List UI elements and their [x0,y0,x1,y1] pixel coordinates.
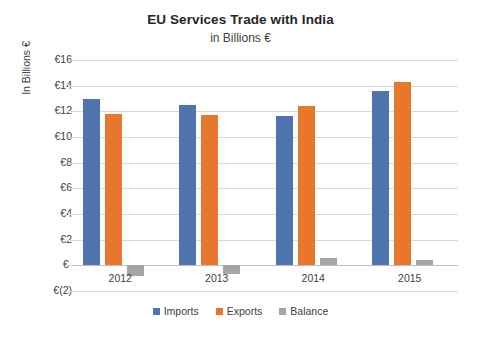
legend-item-balance[interactable]: Balance [279,305,328,317]
legend-swatch-imports-icon [153,308,160,315]
bar-balance-2014 [320,258,337,265]
gridline [72,291,458,292]
y-axis-tick-label: €10 [6,131,72,142]
legend-label: Balance [290,305,328,317]
chart-container: EU Services Trade with India in Billions… [0,0,481,339]
chart-legend: ImportsExportsBalance [0,305,481,317]
x-axis-label-2012: 2012 [72,272,169,284]
legend-item-exports[interactable]: Exports [216,305,263,317]
bar-exports-2012 [105,114,122,265]
legend-swatch-exports-icon [216,308,223,315]
legend-label: Imports [164,305,199,317]
bar-imports-2014 [276,116,293,265]
chart-title: EU Services Trade with India [0,12,481,27]
bar-imports-2013 [179,105,196,265]
y-axis-tick-label: €14 [6,80,72,91]
chart-subtitle: in Billions € [0,31,481,45]
bar-imports-2015 [372,91,389,266]
legend-swatch-balance-icon [279,308,286,315]
y-axis-tick-label: €4 [6,208,72,219]
y-axis-tick-label: €- [6,259,72,270]
y-axis-tick-label: €(2) [6,285,72,296]
bar-imports-2012 [83,99,100,266]
y-axis-tick-label: €16 [6,54,72,65]
bar-balance-2015 [416,260,433,266]
y-axis-tick-label: €2 [6,234,72,245]
y-axis-tick-label: €12 [6,105,72,116]
legend-item-imports[interactable]: Imports [153,305,199,317]
y-axis-ticks: €16€14€12€10€8€6€4€2€-€(2) [0,60,72,291]
gridline [72,60,458,61]
bar-exports-2013 [201,115,218,265]
y-axis-tick-label: €6 [6,182,72,193]
x-axis-label-2014: 2014 [265,272,362,284]
x-axis-label-2015: 2015 [362,272,459,284]
y-axis-tick-label: €8 [6,157,72,168]
plot-area: 2012201320142015 [72,60,458,291]
bar-exports-2014 [298,106,315,265]
legend-label: Exports [227,305,263,317]
bar-exports-2015 [394,82,411,266]
x-axis-label-2013: 2013 [169,272,266,284]
